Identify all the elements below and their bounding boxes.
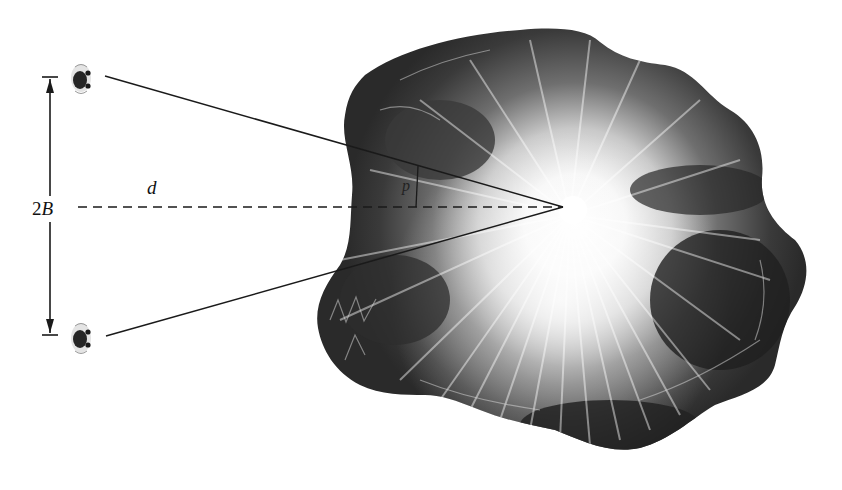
baseline-variable: B <box>42 198 54 219</box>
volcano-image <box>300 20 830 470</box>
baseline-label: 2B <box>31 199 54 218</box>
baseline-number: 2 <box>32 198 42 219</box>
parallax-label: p <box>402 178 410 194</box>
distance-label: d <box>147 178 157 197</box>
eye-icon <box>71 323 91 354</box>
diagram-canvas <box>0 0 842 490</box>
parallax-diagram: 2B d p <box>0 0 842 490</box>
eye-icon <box>71 64 91 94</box>
